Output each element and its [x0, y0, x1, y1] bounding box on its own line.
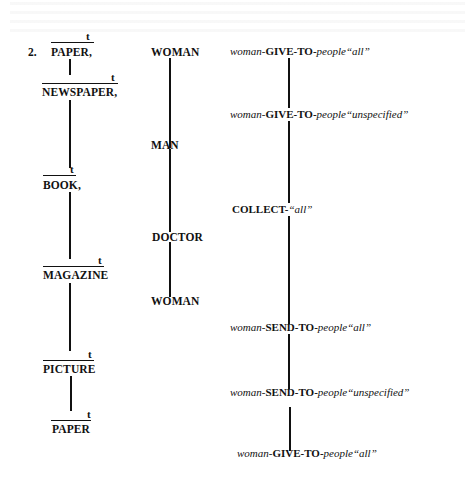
connector-line [69, 100, 71, 168]
modifier: “unspecified” [347, 386, 409, 398]
verb: COLLECT- [232, 203, 288, 215]
agent: woman- [230, 321, 265, 333]
connector-line [288, 121, 290, 203]
gloss-newspaper: NEWSPAPER, [42, 86, 117, 98]
gloss-man: MAN [151, 139, 179, 151]
agent: woman- [237, 447, 272, 459]
agent: woman- [230, 108, 265, 120]
agent: woman- [230, 45, 265, 57]
verb: GIVE-TO- [265, 108, 316, 120]
object: people [318, 386, 347, 398]
gloss-book: BOOK, [43, 179, 81, 191]
object: people [324, 447, 353, 459]
gloss-paper: PAPER [52, 423, 90, 435]
connector-line [69, 283, 71, 351]
connector-line [288, 58, 290, 108]
object: people [317, 108, 346, 120]
connector-line [289, 407, 291, 451]
connector-line [288, 334, 290, 389]
modifier: “all” [347, 321, 371, 333]
gloss-magazine: MAGAZINE [43, 269, 108, 281]
modifier: “all” [288, 203, 312, 215]
verb-phrase: COLLECT-“all” [232, 203, 312, 215]
gloss-picture: PICTURE [43, 363, 95, 375]
agent: woman- [230, 386, 265, 398]
connector-line [169, 149, 171, 232]
topic-overline [51, 420, 91, 421]
topic-marker: t [98, 255, 102, 266]
connector-line [288, 216, 290, 324]
verb-phrase: woman-GIVE-TO-people“all” [237, 447, 377, 459]
gloss-doctor: DOCTOR [152, 231, 203, 243]
topic-overline [43, 360, 94, 361]
object: people [318, 321, 347, 333]
topic-overline [51, 42, 94, 43]
topic-marker: t [88, 349, 92, 360]
verb-phrase: woman-SEND-TO-people“unspecified” [230, 386, 410, 398]
page-bleed-through [10, 2, 465, 32]
topic-overline [42, 83, 118, 84]
topic-marker: t [87, 409, 91, 420]
verb-phrase: woman-SEND-TO-people“all” [230, 321, 371, 333]
connector-line [169, 242, 171, 297]
modifier: “all” [346, 45, 370, 57]
connector-line [69, 59, 71, 75]
example-number: 2. [28, 46, 37, 58]
gloss-woman: WOMAN [151, 46, 199, 58]
verb: SEND-TO- [265, 321, 317, 333]
topic-overline [43, 175, 76, 176]
verb-phrase: woman-GIVE-TO-people“all” [230, 45, 370, 57]
connector-line [70, 376, 72, 411]
topic-marker: t [86, 31, 90, 42]
topic-marker: t [111, 72, 115, 83]
topic-marker: t [70, 164, 74, 175]
connector-line [169, 58, 171, 148]
verb-phrase: woman-GIVE-TO-people“unspecified” [230, 108, 408, 120]
connector-line [69, 192, 71, 259]
modifier: “all” [353, 447, 377, 459]
object: people [317, 45, 346, 57]
verb: GIVE-TO- [272, 447, 323, 459]
gloss-woman: WOMAN [151, 295, 199, 307]
verb: GIVE-TO- [265, 45, 316, 57]
gloss-paper: PAPER, [51, 46, 92, 58]
verb: SEND-TO- [265, 386, 317, 398]
modifier: “unspecified” [346, 108, 408, 120]
topic-overline [43, 266, 104, 267]
